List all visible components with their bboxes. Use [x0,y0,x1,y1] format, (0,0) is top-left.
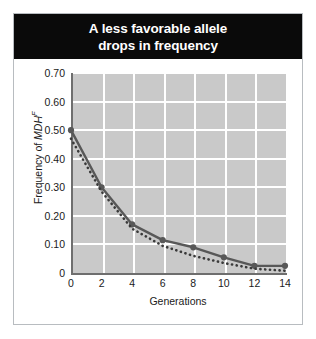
x-axis-tick-label: 4 [129,277,135,289]
y-axis-tick-label: 0.50 [45,124,65,136]
data-point-marker [221,254,227,260]
y-axis-tick-label: 0.60 [45,96,65,108]
y-axis-tick-label: 0.40 [45,153,65,165]
x-axis-tick-label: 8 [190,277,196,289]
x-axis-tick-label: 14 [279,277,291,289]
chart-title-line-2: drops in frequency [98,37,218,54]
data-point-marker [282,263,288,269]
y-axis-tick-label: 0.70 [45,67,65,79]
x-axis-tick-label: 0 [68,277,74,289]
data-point-marker [160,237,166,243]
chart-title-line-1: A less favorable allele [89,20,227,37]
y-axis-tick-label: 0.10 [45,238,65,250]
x-axis-tick-label: 10 [218,277,230,289]
figure-frame: A less favorable allele drops in frequen… [13,13,303,325]
y-axis-tick-label: 0.30 [45,181,65,193]
x-axis-title: Generations [71,295,285,307]
chart-title-banner: A less favorable allele drops in frequen… [14,14,302,59]
x-axis-tick-label: 12 [249,277,261,289]
y-axis-tick-label: 0 [59,267,65,279]
chart-area: Frequency of MDHF 0.700.600.500.400.300.… [14,59,302,324]
x-axis-tick-label: 6 [160,277,166,289]
gridline-vertical [286,73,288,273]
series-layer [71,73,285,273]
x-axis-tick-label: 2 [99,277,105,289]
series-line [71,130,285,266]
x-axis-tick-labels: 02468101214 [71,277,287,295]
data-point-marker [190,244,196,250]
data-point-marker [68,127,74,133]
series-line [71,139,285,271]
y-axis-tick-labels: 0.700.600.500.400.300.200.100 [14,73,69,273]
y-axis-tick-label: 0.20 [45,210,65,222]
